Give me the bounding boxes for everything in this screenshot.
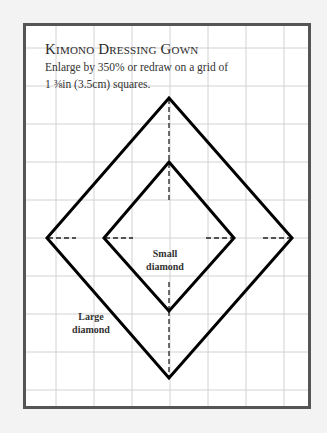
small-diamond-outline <box>104 162 234 311</box>
large-diamond-label: Large diamond <box>64 310 118 336</box>
small-diamond-label-line1: Small <box>140 247 190 260</box>
large-diamond-label-line2: diamond <box>64 323 118 336</box>
instructions-line-1: Enlarge by 350% or redraw on a grid of <box>45 61 228 73</box>
pattern-title: Kimono Dressing Gown <box>45 41 198 58</box>
small-diamond-label-line2: diamond <box>140 260 190 273</box>
instructions-line-2: 1 ⅜in (3.5cm) squares. <box>45 78 150 90</box>
small-diamond-label: Small diamond <box>140 247 190 273</box>
large-diamond-label-line1: Large <box>64 310 118 323</box>
